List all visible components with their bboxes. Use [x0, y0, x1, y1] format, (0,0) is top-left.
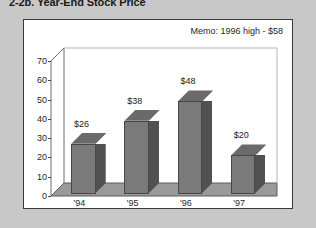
x-axis-category-label: '95 [120, 198, 146, 208]
y-axis-tick-label: 40 [29, 114, 47, 124]
x-axis-category-label: '94 [66, 198, 92, 208]
y-axis-tick-label: 20 [29, 152, 47, 162]
plot-area: 010203040506070$26'94$38'95$48'96$20'97 [24, 20, 292, 208]
bar-column[interactable] [178, 101, 202, 194]
x-axis-category-label: '96 [173, 198, 199, 208]
y-axis-tick-mark [48, 80, 51, 81]
bar-value-label: $48 [172, 76, 204, 86]
bar-column[interactable] [71, 144, 95, 194]
y-axis-tick-mark [48, 157, 51, 158]
y-axis-tick-mark [48, 196, 51, 197]
bar-value-label: $38 [119, 96, 151, 106]
y-axis-depth-line [51, 48, 64, 61]
y-axis-tick-mark [48, 61, 51, 62]
y-axis-tick-label: 0 [29, 191, 47, 201]
y-axis-tick-label: 50 [29, 95, 47, 105]
y-axis-tick-mark [48, 119, 51, 120]
y-axis-tick-label: 70 [29, 56, 47, 66]
bar-side-face [148, 121, 159, 194]
chart-panel: Memo: 1996 high - $58 010203040506070$26… [23, 19, 293, 209]
bar-column[interactable] [231, 155, 255, 194]
page-title: 2-2b. Year-End Stock Price [9, 0, 146, 8]
y-axis-tick-label: 10 [29, 172, 47, 182]
x-axis-category-label: '97 [226, 198, 252, 208]
y-axis-tick-mark [48, 100, 51, 101]
bar-value-label: $20 [225, 130, 257, 140]
y-axis-tick-label: 60 [29, 75, 47, 85]
y-axis-tick-mark [48, 138, 51, 139]
y-axis-tick-mark [48, 177, 51, 178]
y-axis-tick-label: 30 [29, 133, 47, 143]
bar-column[interactable] [124, 121, 148, 194]
bar-side-face [201, 101, 212, 194]
bar-value-label: $26 [65, 119, 97, 129]
